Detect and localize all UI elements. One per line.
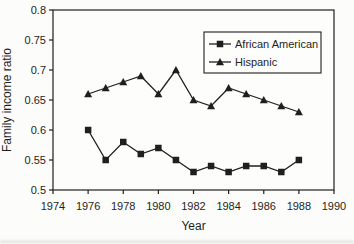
data-point-square (217, 41, 224, 48)
y-tick-label: 0.7 (31, 64, 46, 76)
x-tick-label: 1986 (252, 200, 276, 212)
y-tick-label: 0.75 (25, 34, 46, 46)
data-point-square (138, 151, 145, 158)
data-point-square (225, 169, 232, 176)
y-tick-label: 0.5 (31, 184, 46, 196)
chart-canvas: 197419761978198019821984198619881990 0.5… (0, 0, 354, 244)
data-point-square (85, 127, 92, 134)
x-tick-label: 1974 (41, 200, 65, 212)
data-point-square (155, 145, 162, 152)
data-point-square (296, 157, 303, 164)
x-tick-label: 1978 (111, 200, 135, 212)
data-point-square (243, 163, 250, 170)
legend-label-african-american: African American (235, 38, 318, 50)
y-tick-label: 0.55 (25, 154, 46, 166)
data-point-square (120, 139, 127, 146)
y-axis-title: Family income ratio (0, 48, 14, 152)
x-axis: 197419761978198019821984198619881990 (41, 190, 346, 212)
x-tick-label: 1982 (181, 200, 205, 212)
x-tick-label: 1980 (146, 200, 170, 212)
scan-artifact-cropped-text-row (0, 241, 354, 244)
y-tick-label: 0.6 (31, 124, 46, 136)
x-axis-title: Year (181, 219, 205, 233)
family-income-ratio-chart: 197419761978198019821984198619881990 0.5… (0, 0, 354, 244)
legend: African AmericanHispanic (204, 32, 321, 73)
data-point-square (173, 157, 180, 164)
data-point-square (190, 169, 197, 176)
legend-label-hispanic: Hispanic (235, 56, 278, 68)
data-point-square (208, 163, 215, 170)
x-tick-label: 1990 (322, 200, 346, 212)
x-tick-label: 1984 (216, 200, 240, 212)
data-point-square (278, 169, 285, 176)
data-point-square (102, 157, 109, 164)
data-point-square (261, 163, 268, 170)
x-tick-label: 1976 (76, 200, 100, 212)
y-tick-label: 0.8 (31, 4, 46, 16)
y-axis: 0.50.550.60.650.70.750.8 (25, 4, 53, 196)
x-tick-label: 1988 (287, 200, 311, 212)
y-tick-label: 0.65 (25, 94, 46, 106)
